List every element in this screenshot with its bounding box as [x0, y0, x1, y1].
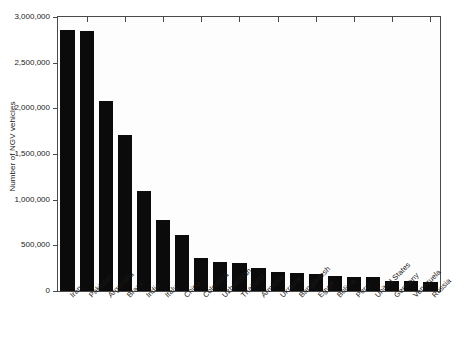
top-axis-tick	[239, 17, 240, 22]
top-axis-tick	[430, 17, 431, 22]
y-axis-title-text: Number of NGV vehicles	[8, 101, 17, 191]
bar	[175, 235, 189, 291]
top-axis-tick	[125, 17, 126, 22]
plot-inner: 0500,0001,000,0001,500,0002,000,0002,500…	[58, 17, 440, 291]
bar	[99, 101, 113, 291]
bar	[60, 30, 74, 291]
y-axis-tick-label: 2,000,000	[14, 103, 50, 112]
top-axis-tick	[87, 17, 88, 22]
top-axis-tick	[392, 17, 393, 22]
x-axis-labels: IranPakistanArgentinaBrazilIndiaItalyChi…	[57, 293, 441, 348]
y-axis-tick: 500,000	[53, 245, 58, 246]
y-axis-tick: 3,000,000	[53, 17, 58, 18]
y-axis-tick: 1,500,000	[53, 154, 58, 155]
top-axis-tick	[278, 17, 279, 22]
plot-area: 0500,0001,000,0001,500,0002,000,0002,500…	[57, 16, 441, 292]
y-axis-tick: 2,000,000	[53, 108, 58, 109]
top-axis-tick	[201, 17, 202, 22]
bar	[118, 135, 132, 291]
y-axis-title: Number of NGV vehicles	[2, 0, 22, 292]
bar-chart-figure: Number of NGV vehicles 0500,0001,000,000…	[0, 0, 468, 348]
y-axis-tick: 1,000,000	[53, 200, 58, 201]
bar	[80, 31, 94, 291]
y-axis-tick-label: 500,000	[21, 240, 50, 249]
top-axis-tick	[163, 17, 164, 22]
top-axis-tick	[316, 17, 317, 22]
top-axis-tick	[354, 17, 355, 22]
y-axis-tick-label: 2,500,000	[14, 58, 50, 67]
y-axis-tick-label: 1,500,000	[14, 149, 50, 158]
y-axis-tick: 0	[53, 291, 58, 292]
bar	[137, 191, 151, 291]
bar	[156, 220, 170, 291]
y-axis-tick-label: 3,000,000	[14, 12, 50, 21]
y-axis-tick-label: 1,000,000	[14, 195, 50, 204]
y-axis-tick: 2,500,000	[53, 63, 58, 64]
y-axis-tick-label: 0	[46, 286, 50, 295]
